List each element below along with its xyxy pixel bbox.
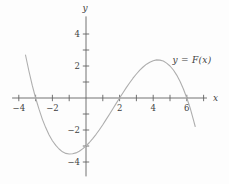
y-tick-label: 4 xyxy=(75,29,80,39)
x-tick-label: 2 xyxy=(117,103,122,113)
y-tick-label: −4 xyxy=(67,157,80,167)
x-tick-label: −2 xyxy=(46,103,59,113)
y-tick-label: 2 xyxy=(75,61,80,71)
plot-axes-and-curve: −4−2246−4−224 xyxy=(12,16,207,176)
y-axis-label: y xyxy=(81,3,88,13)
x-axis-label: x xyxy=(213,93,218,103)
curve-label: y = F(x) xyxy=(171,55,211,65)
function-graph-figure: −4−2246−4−224 y x y = F(x) xyxy=(0,0,229,184)
y-tick-label: −2 xyxy=(67,125,80,135)
x-tick-label: −4 xyxy=(13,103,26,113)
plot-svg: −4−2246−4−224 y x y = F(x) xyxy=(0,0,229,184)
x-tick-label: 4 xyxy=(150,103,155,113)
